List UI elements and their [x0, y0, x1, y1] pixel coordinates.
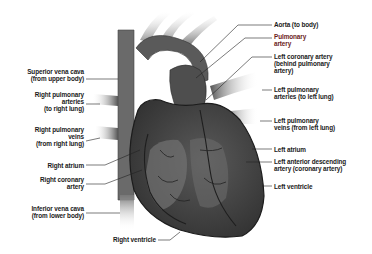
label-left-ventricle: Left ventricle	[274, 183, 312, 190]
label-aorta: Aorta (to body)	[274, 21, 318, 28]
label-inferior-vena-cava: Inferior vena cava (from lower body)	[31, 205, 84, 219]
label-left-pulmonary-arteries: Left pulmonary arteries (to left lung)	[274, 86, 333, 100]
label-left-coronary-artery: Left coronary artery (behind pulmonary a…	[274, 53, 332, 75]
label-right-ventricle: Right ventricle	[113, 236, 156, 243]
label-pulmonary-artery: Pulmonary artery	[274, 33, 306, 47]
left-pulmonary-arteries-shape	[210, 72, 258, 100]
label-right-atrium: Right atrium	[48, 162, 84, 169]
label-right-coronary-artery: Right coronary artery	[40, 176, 84, 190]
label-left-anterior-descending: Left anterior descending artery (coronar…	[274, 158, 346, 172]
label-left-pulmonary-veins: Left pulmonary veins (from left lung)	[274, 117, 335, 131]
inferior-vena-cava-shape	[120, 195, 134, 230]
label-right-pulmonary-arteries: Right pulmonary arteries (to right lung)	[35, 91, 84, 113]
label-left-atrium: Left atrium	[274, 146, 306, 153]
label-superior-vena-cava: Superior vena cava (from upper body)	[27, 68, 84, 82]
right-pulmonary-veins-shape	[94, 126, 118, 140]
label-right-pulmonary-veins: Right pulmonary veins (from right lung)	[35, 126, 84, 148]
